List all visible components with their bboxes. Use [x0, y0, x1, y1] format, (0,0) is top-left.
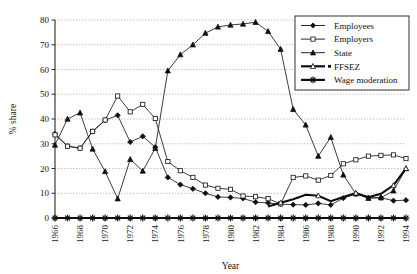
legend-item-label: State [334, 48, 352, 58]
marker-asterisk [52, 215, 59, 222]
x-tick-label: 1970 [100, 225, 110, 244]
marker-asterisk [240, 215, 247, 222]
marker-open-square [354, 158, 358, 162]
marker-open-square [78, 146, 82, 150]
y-tick-label: 50 [40, 89, 50, 99]
marker-open-square [341, 162, 345, 166]
x-tick-label: 1972 [125, 225, 135, 243]
marker-asterisk [89, 215, 96, 222]
marker-asterisk [302, 215, 309, 222]
x-tick-label: 1974 [150, 225, 160, 244]
x-tick-label: 1980 [226, 225, 236, 244]
marker-asterisk [164, 215, 171, 222]
x-tick-label: 1978 [201, 225, 211, 244]
x-tick-label: 1966 [50, 225, 60, 244]
legend-item-label: FFSEZ [334, 62, 360, 72]
marker-asterisk [340, 215, 347, 222]
marker-asterisk [390, 215, 397, 222]
chart-legend: EmployeesEmployersStateFFSEZWage moderat… [295, 16, 409, 90]
marker-asterisk [265, 215, 272, 222]
marker-open-square [329, 173, 333, 177]
marker-open-square [379, 153, 383, 157]
x-tick-label: 1986 [301, 225, 311, 244]
marker-open-square [53, 133, 57, 137]
marker-asterisk [64, 215, 71, 222]
x-tick-label: 1976 [176, 225, 186, 244]
marker-open-square [166, 159, 170, 163]
x-axis-title: Year [222, 261, 240, 271]
marker-open-square [216, 186, 220, 190]
marker-asterisk [365, 215, 372, 222]
marker-open-square [366, 154, 370, 158]
marker-open-square [316, 178, 320, 182]
y-tick-label: 0 [45, 213, 50, 223]
marker-open-square [203, 183, 207, 187]
legend-dash-sample [328, 65, 331, 68]
marker-asterisk [177, 215, 184, 222]
marker-asterisk [352, 215, 359, 222]
marker-asterisk [139, 215, 146, 222]
marker-open-square [228, 187, 232, 191]
marker-open-square [91, 129, 95, 133]
marker-asterisk [315, 215, 322, 222]
marker-open-square [311, 37, 315, 41]
y-tick-label: 10 [40, 188, 50, 198]
marker-open-square [404, 157, 408, 161]
legend-item-label: Wage moderation [334, 75, 398, 85]
marker-open-square [65, 144, 69, 148]
marker-open-square [178, 169, 182, 173]
marker-asterisk [227, 215, 234, 222]
y-tick-label: 80 [40, 15, 50, 25]
marker-asterisk [378, 215, 385, 222]
marker-asterisk [114, 215, 121, 222]
y-tick-label: 30 [40, 139, 50, 149]
x-tick-label: 1988 [326, 225, 336, 244]
marker-open-square [128, 110, 132, 114]
y-tick-label: 60 [40, 65, 50, 75]
marker-open-square [304, 174, 308, 178]
marker-asterisk [403, 215, 410, 222]
marker-open-square [291, 175, 295, 179]
marker-asterisk [310, 77, 317, 84]
marker-asterisk [127, 215, 134, 222]
marker-open-square [253, 195, 257, 199]
marker-open-square [241, 194, 245, 198]
x-tick-label: 1982 [251, 225, 261, 243]
legend-item-label: Employees [334, 21, 374, 31]
legend-item-label: Employers [334, 34, 373, 44]
marker-asterisk [252, 215, 259, 222]
marker-open-square [103, 118, 107, 122]
y-axis-title: % share [8, 104, 18, 134]
y-tick-label: 20 [40, 164, 50, 174]
marker-asterisk [290, 215, 297, 222]
marker-asterisk [102, 215, 109, 222]
marker-open-square [191, 175, 195, 179]
marker-asterisk [327, 215, 334, 222]
marker-asterisk [277, 215, 284, 222]
marker-asterisk [152, 215, 159, 222]
marker-open-square [391, 153, 395, 157]
marker-open-square [116, 94, 120, 98]
x-tick-label: 1990 [351, 225, 361, 244]
marker-open-square [266, 197, 270, 201]
y-tick-label: 40 [40, 114, 50, 124]
x-tick-label: 1984 [276, 225, 286, 244]
x-tick-label: 1992 [376, 225, 386, 243]
series-wage-moderation [52, 215, 410, 222]
marker-open-square [141, 102, 145, 106]
marker-asterisk [202, 215, 209, 222]
line-chart: 01020304050607080 1966196819701972197419… [0, 0, 417, 274]
x-tick-label: 1994 [401, 225, 411, 244]
marker-asterisk [77, 215, 84, 222]
marker-asterisk [215, 215, 222, 222]
y-tick-label: 70 [40, 40, 50, 50]
marker-open-square [153, 116, 157, 120]
x-tick-label: 1968 [75, 225, 85, 244]
marker-asterisk [189, 215, 196, 222]
chart-container: 01020304050607080 1966196819701972197419… [0, 0, 417, 274]
